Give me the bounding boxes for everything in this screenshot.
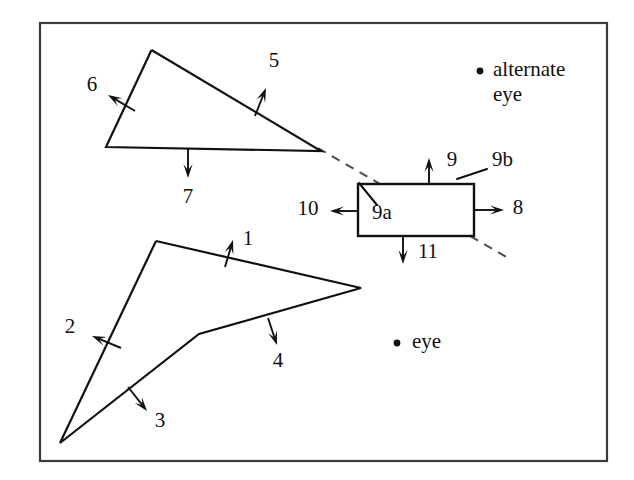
edge-label-8: 8 xyxy=(513,195,524,219)
edge-label-1: 1 xyxy=(243,226,254,250)
label-9b: 9b xyxy=(492,147,513,171)
figure-root: 1 2 3 4 5 6 7 8 9 10 11 9a 9b alternate … xyxy=(0,0,634,480)
edge-label-7: 7 xyxy=(183,184,194,208)
edge-label-3: 3 xyxy=(155,408,166,432)
edge-label-4: 4 xyxy=(273,348,284,372)
eye-label: eye xyxy=(412,329,441,353)
edge-label-2: 2 xyxy=(65,314,76,338)
alternate-eye-label-line2: eye xyxy=(493,82,522,106)
label-9a: 9a xyxy=(372,200,393,224)
alternate-eye-label-line1: alternate xyxy=(493,57,565,81)
edge-label-11: 11 xyxy=(418,239,438,263)
alternate-eye-dot xyxy=(477,68,484,75)
edge-label-10: 10 xyxy=(298,196,319,220)
edge-label-9: 9 xyxy=(447,147,458,171)
eye-dot xyxy=(394,340,401,347)
polygon-visibility-diagram: 1 2 3 4 5 6 7 8 9 10 11 9a 9b alternate … xyxy=(0,0,634,480)
edge-label-5: 5 xyxy=(269,48,280,72)
edge-label-6: 6 xyxy=(87,72,98,96)
